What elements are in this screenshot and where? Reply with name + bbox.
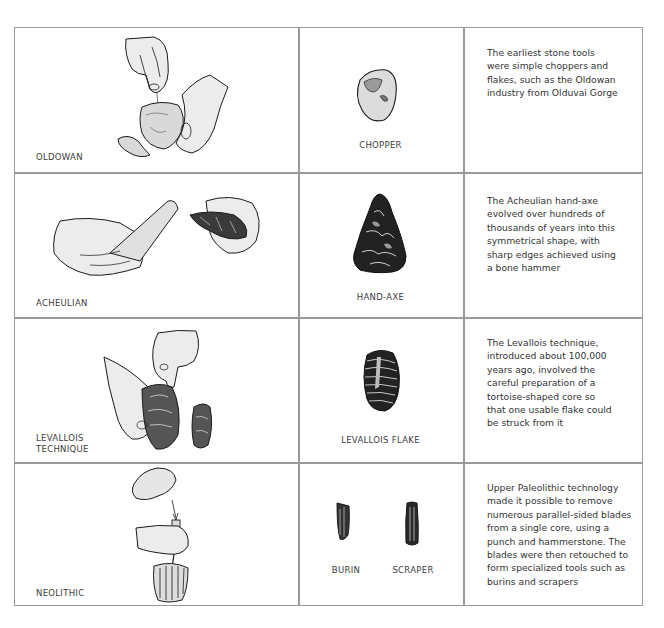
tool-label: HAND-AXE [298,292,463,302]
description-line: blades were then retouched to [487,548,637,561]
description-text: Upper Paleolithic technology made it pos… [487,481,637,588]
description-text: The Levallois technique, introduced abou… [487,336,637,430]
description-line: symmetrical shape, with [487,234,637,247]
description-line: tortoise-shaped core so [487,390,637,403]
oldowan-illustration [110,35,240,160]
description-line: numerous parallel-sided blades [487,508,637,521]
description-line: years ago, involved the [487,363,637,376]
technique-label: OLDOWAN [36,152,83,163]
description-line: punch and hammerstone. The [487,535,637,548]
description-line: were simple choppers and [487,59,637,72]
row-divider [14,462,643,464]
chopper-icon [352,66,402,124]
acheulian-illustration [50,195,270,295]
description-line: burins and scrapers [487,575,637,588]
description-line: careful preparation of a [487,376,637,389]
tool-label: LEVALLOIS FLAKE [298,435,463,445]
technique-label-line: LEVALLOIS [36,433,89,444]
description-line: The Acheulian hand-axe [487,194,637,207]
description-line: thousands of years into this [487,221,637,234]
technique-label: LEVALLOIS TECHNIQUE [36,433,89,455]
description-line: introduced about 100,000 [487,349,637,362]
description-text: The Acheulian hand-axe evolved over hund… [487,194,637,274]
row-divider [14,172,643,174]
tool-label: SCRAPER [388,565,438,575]
technique-label: NEOLITHIC [36,588,84,599]
burin-icon [335,501,351,541]
tool-label: BURIN [326,565,366,575]
technique-label-line: TECHNIQUE [36,444,89,455]
description-line: The Levallois technique, [487,336,637,349]
description-line: flakes, such as the Oldowan [487,73,637,86]
description-line: a bone hammer [487,261,637,274]
levallois-flake-icon [359,347,403,413]
hand-axe-icon [350,192,410,274]
levallois-illustration [98,327,228,455]
description-text: The earliest stone tools were simple cho… [487,46,637,100]
description-line: sharp edges achieved using [487,248,637,261]
tool-label: CHOPPER [298,140,463,150]
description-line: The earliest stone tools [487,46,637,59]
description-line: from a single core, using a [487,521,637,534]
description-line: Upper Paleolithic technology [487,481,637,494]
description-line: industry from Olduvai Gorge [487,86,637,99]
row-divider [14,317,643,319]
neolithic-illustration [128,466,198,602]
description-line: evolved over hundreds of [487,207,637,220]
description-line: be struck from it [487,416,637,429]
description-line: that one usable flake could [487,403,637,416]
description-line: form specialized tools such as [487,561,637,574]
technique-label: ACHEULIAN [36,298,88,309]
scraper-icon [404,501,420,547]
description-line: made it possible to remove [487,494,637,507]
